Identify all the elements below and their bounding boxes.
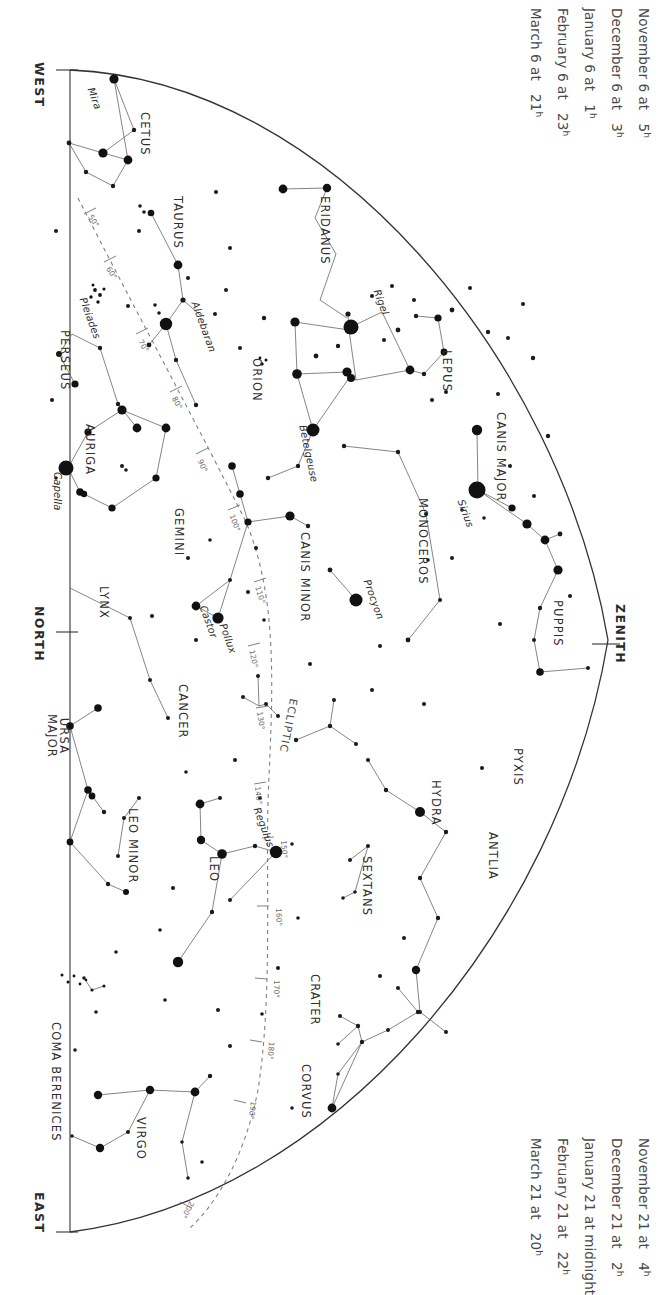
chart-time-hour: 21 xyxy=(528,94,544,111)
constellation-label: HYDRA xyxy=(429,780,443,826)
constellation-label: PUPPIS xyxy=(551,600,565,647)
chart-date-time-line: December 21 at 2h xyxy=(609,1138,626,1276)
pleiades-cluster xyxy=(89,284,105,304)
chart-date-time-line: January 6 at 1h xyxy=(582,8,599,119)
caption-bottom-right: November 21 at 4hDecember 21 at 2hJanuar… xyxy=(0,1130,665,1285)
line-eridanus xyxy=(283,188,347,318)
chart-time-spacer xyxy=(582,91,598,104)
chart-time-spacer xyxy=(555,1239,571,1252)
chart-date-text: March 21 at xyxy=(528,1138,544,1220)
star-aldebaran xyxy=(160,318,172,330)
chart-date-text: December 6 at xyxy=(609,8,625,110)
chart-time-hour: 3 xyxy=(609,123,625,132)
line-gemini xyxy=(196,466,308,618)
chart-date-time-line: February 21 at 22h xyxy=(555,1138,572,1275)
chart-date-text: January 6 at xyxy=(582,8,598,91)
star-name-label: Capella xyxy=(52,472,63,511)
line-orion-rigel xyxy=(351,312,410,380)
chart-date-time-line: March 21 at 20h xyxy=(528,1138,545,1256)
chart-time-hour: 22 xyxy=(555,1252,571,1269)
line-hydra-head xyxy=(368,760,420,812)
chart-time-unit: h xyxy=(642,1271,652,1277)
constellation-label: CORVUS xyxy=(299,1064,313,1119)
constellation-label: LEO xyxy=(207,856,221,882)
chart-time-unit: h xyxy=(642,132,652,138)
constellation-label: PERSEUS xyxy=(58,330,72,391)
constellation-label: LEO MINOR xyxy=(126,808,140,884)
constellation-label: ERIDANUS xyxy=(318,196,332,265)
horizon-arc-group xyxy=(70,70,608,1232)
chart-time-unit: h xyxy=(561,130,571,136)
line-corvus xyxy=(332,1042,362,1108)
chart-time-spacer xyxy=(555,100,571,113)
chart-time-hour: 4 xyxy=(636,1262,652,1271)
ecliptic-degree-label: 160° xyxy=(274,908,284,926)
ecliptic-degree-label: 140° xyxy=(253,786,264,805)
constellation-label: CRATER xyxy=(308,974,322,1026)
stars-brightest xyxy=(59,318,486,858)
ecliptic-degree-label: 150° xyxy=(279,840,289,859)
chart-date-text: February 21 at xyxy=(555,1138,571,1239)
chart-date-text: December 21 at xyxy=(609,1138,625,1249)
star-procyon xyxy=(350,594,363,607)
constellation-label: MONOCEROS xyxy=(416,498,430,585)
line-filler-east xyxy=(296,700,356,744)
constellation-label: URSAMAJOR xyxy=(46,714,70,758)
line-canis-major xyxy=(477,430,560,570)
constellation-label: CANCER xyxy=(176,684,190,739)
chart-date-time-line: November 21 at 4h xyxy=(636,1138,653,1277)
chart-date-text: March 6 at xyxy=(528,8,544,81)
constellation-label: CANIS MAJOR xyxy=(494,412,508,502)
chart-date-text: November 21 at xyxy=(636,1138,652,1249)
chart-time-hour: 23 xyxy=(555,113,571,130)
constellation-label: AURIGA xyxy=(83,424,97,475)
chart-time-spacer xyxy=(528,1220,544,1233)
line-lepus xyxy=(410,316,444,374)
constellation-label-line2: MAJOR xyxy=(45,714,59,758)
chart-time-unit: h xyxy=(588,113,598,119)
chart-time-unit: h xyxy=(534,111,544,117)
label-north: NORTH xyxy=(32,606,47,662)
chart-date-time-line: December 6 at 3h xyxy=(609,8,626,138)
label-zenith: ZENITH xyxy=(613,604,628,664)
chart-date-time-line: March 6 at 21h xyxy=(528,8,545,117)
constellation-label: TAURUS xyxy=(171,196,185,249)
constellation-label: SEXTANS xyxy=(360,856,374,916)
constellation-label: GEMINI xyxy=(172,508,186,556)
line-crater xyxy=(338,988,418,1044)
chart-time-unit: h xyxy=(561,1269,571,1275)
chart-time-spacer xyxy=(609,1249,625,1262)
constellation-label: CANIS MINOR xyxy=(298,532,312,622)
chart-time-spacer xyxy=(609,110,625,123)
ecliptic-degree-label: 180° xyxy=(266,1041,276,1060)
chart-time-hour: 1 xyxy=(582,104,598,113)
line-ursa-major xyxy=(70,708,126,892)
constellation-label: LEPUS xyxy=(440,350,454,392)
constellation-label: COMA BERENICES xyxy=(49,1022,63,1142)
chart-time-hour: 5 xyxy=(636,123,652,132)
chart-time-spacer xyxy=(636,1249,652,1262)
chart-time-spacer xyxy=(528,81,544,94)
dome-arc xyxy=(70,70,608,1232)
chart-time-unit: h xyxy=(534,1250,544,1256)
constellation-label-line1: URSA xyxy=(57,718,71,754)
constellation-label: ORION xyxy=(250,358,264,402)
constellation-label: LYNX xyxy=(97,586,111,619)
ecliptic-curve xyxy=(78,198,272,1228)
chart-date-text: February 6 at xyxy=(555,8,571,100)
chart-date-time-line: February 6 at 23h xyxy=(555,8,572,136)
chart-date-text: November 6 at xyxy=(636,8,652,110)
chart-time-spacer xyxy=(636,110,652,123)
chart-time-unit: h xyxy=(615,132,625,138)
caption-top-right: November 6 at 5hDecember 6 at 3hJanuary … xyxy=(0,0,665,170)
constellation-label: PYXIS xyxy=(511,748,525,786)
ecliptic-degree-label: 170° xyxy=(272,980,281,998)
chart-time-unit: h xyxy=(615,1271,625,1277)
chart-date-time-line: January 21 at midnight xyxy=(582,1138,598,1295)
chart-date-time-line: November 6 at 5h xyxy=(636,8,653,138)
constellation-label: ANTLIA xyxy=(486,832,500,880)
chart-date-text: January 21 at midnight xyxy=(582,1138,598,1295)
star-sirius xyxy=(469,482,486,499)
